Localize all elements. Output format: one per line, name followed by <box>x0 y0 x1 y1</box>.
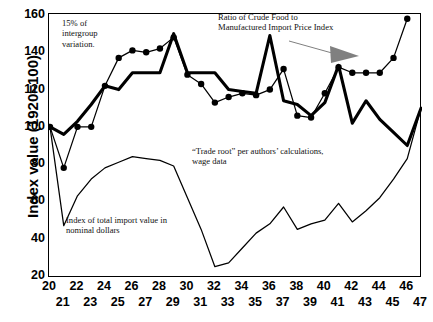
series-line <box>50 34 421 146</box>
x-tick-label: 41 <box>326 295 350 309</box>
callout-arrow-icon <box>289 41 359 63</box>
data-point-marker <box>377 70 383 76</box>
x-tick-label: 37 <box>271 295 295 309</box>
y-tick-label: 60 <box>5 195 45 205</box>
data-point-marker <box>390 55 396 61</box>
x-tick-label: 34 <box>229 279 253 293</box>
data-point-marker <box>116 55 122 61</box>
x-tick-label: 40 <box>312 279 336 293</box>
x-tick-label: 22 <box>64 279 88 293</box>
series-canvas <box>49 14 420 276</box>
annotation-intergroup-variation: 15% of intergroup variation. <box>62 18 98 49</box>
y-tick-label: 80 <box>5 158 45 168</box>
y-tick-label: 160 <box>5 9 45 19</box>
data-point-marker <box>280 66 286 72</box>
data-point-marker <box>267 86 273 92</box>
data-point-marker <box>129 47 135 53</box>
x-tick-label: 25 <box>106 295 130 309</box>
data-point-marker <box>157 45 163 51</box>
data-point-marker <box>198 81 204 87</box>
x-tick-label: 46 <box>394 279 418 293</box>
data-point-marker <box>88 124 94 130</box>
x-axis-tick-labels: 2021222324252627282930313233343536373839… <box>0 278 433 322</box>
x-tick-label: 39 <box>298 295 322 309</box>
data-point-marker <box>349 70 355 76</box>
x-tick-label: 42 <box>339 279 363 293</box>
data-point-marker <box>212 99 218 105</box>
x-tick-label: 38 <box>284 279 308 293</box>
x-tick-label: 44 <box>367 279 391 293</box>
x-tick-label: 36 <box>257 279 281 293</box>
data-point-marker <box>294 112 300 118</box>
x-tick-label: 35 <box>243 295 267 309</box>
x-tick-label: 24 <box>92 279 116 293</box>
x-tick-label: 31 <box>188 295 212 309</box>
chart-figure: Index value (1920=100) 20406080100120140… <box>0 0 433 322</box>
x-tick-label: 20 <box>37 279 61 293</box>
data-point-marker <box>225 94 231 100</box>
y-tick-label: 120 <box>5 84 45 94</box>
series-line <box>50 108 421 266</box>
x-tick-label: 45 <box>381 295 405 309</box>
x-tick-label: 27 <box>133 295 157 309</box>
annotation-trade-root: “Trade root” per authors’ calculations, … <box>192 146 324 167</box>
x-tick-label: 33 <box>216 295 240 309</box>
x-tick-label: 47 <box>408 295 432 309</box>
x-tick-label: 32 <box>202 279 226 293</box>
x-tick-label: 28 <box>147 279 171 293</box>
annotation-ratio-crude-food: Ratio of Crude Food to Manufactured Impo… <box>218 12 333 33</box>
annotation-total-import-value: Index of total import value in nominal d… <box>66 215 167 236</box>
x-tick-label: 26 <box>119 279 143 293</box>
y-tick-label: 100 <box>5 121 45 131</box>
y-tick-label: 140 <box>5 46 45 56</box>
x-tick-label: 43 <box>353 295 377 309</box>
data-point-marker <box>404 16 410 22</box>
x-tick-label: 30 <box>174 279 198 293</box>
plot-area <box>48 13 421 277</box>
data-point-marker <box>143 49 149 55</box>
y-tick-label: 40 <box>5 233 45 243</box>
x-tick-label: 21 <box>51 295 75 309</box>
x-tick-label: 29 <box>161 295 185 309</box>
y-axis-tick-labels: 20406080100120140160 <box>0 0 45 322</box>
data-point-marker <box>61 165 67 171</box>
x-tick-label: 23 <box>78 295 102 309</box>
data-point-marker <box>363 70 369 76</box>
